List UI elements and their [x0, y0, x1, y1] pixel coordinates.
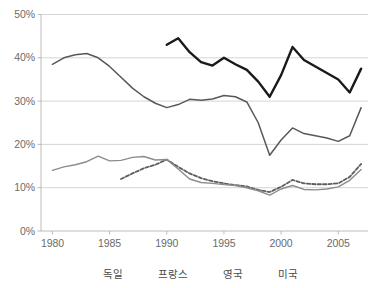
- series-line: [167, 38, 361, 96]
- legend-item[interactable]: 미국: [257, 268, 298, 280]
- y-tick-label: 10%: [1, 181, 35, 193]
- series-line: [52, 156, 361, 195]
- series-line: [52, 53, 361, 155]
- legend-item[interactable]: 독일: [82, 268, 123, 280]
- legend-item[interactable]: 프랑스: [137, 268, 188, 280]
- x-tick-label: 2000: [259, 237, 303, 249]
- y-tick-label: 0%: [1, 225, 35, 237]
- x-tick-label: 1985: [88, 237, 132, 249]
- x-tick-label: 2005: [316, 237, 360, 249]
- line-chart: 0%10%20%30%40%50% 1980198519901995200020…: [0, 0, 380, 288]
- legend-label-france: 프랑스: [158, 268, 188, 280]
- x-tick-label: 1995: [202, 237, 246, 249]
- chart-legend: 독일 프랑스 영국 미국: [0, 263, 380, 285]
- y-tick-label: 30%: [1, 95, 35, 107]
- x-tick-label: 1990: [145, 237, 189, 249]
- legend-label-usa: 미국: [278, 268, 298, 280]
- y-tick-label: 20%: [1, 138, 35, 150]
- axis-lines: [41, 15, 368, 232]
- legend-label-germany: 독일: [103, 268, 123, 280]
- y-tick-label: 40%: [1, 51, 35, 63]
- series-lines: [52, 38, 361, 195]
- legend-item[interactable]: 영국: [202, 268, 243, 280]
- y-tick-label: 50%: [1, 8, 35, 20]
- legend-label-uk: 영국: [223, 268, 243, 280]
- gridlines: [41, 15, 368, 188]
- x-tick-label: 1980: [30, 237, 74, 249]
